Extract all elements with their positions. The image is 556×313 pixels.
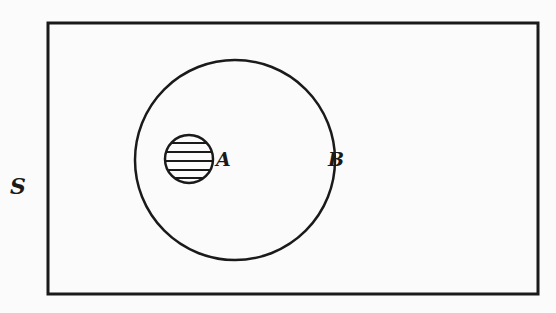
set-b-label: B <box>328 150 344 169</box>
set-a-label: A <box>216 150 231 169</box>
universal-set-label: S <box>10 175 26 197</box>
venn-diagram-graphic <box>0 0 556 313</box>
venn-diagram: S A B <box>0 0 556 313</box>
universal-set-rectangle <box>48 23 538 294</box>
